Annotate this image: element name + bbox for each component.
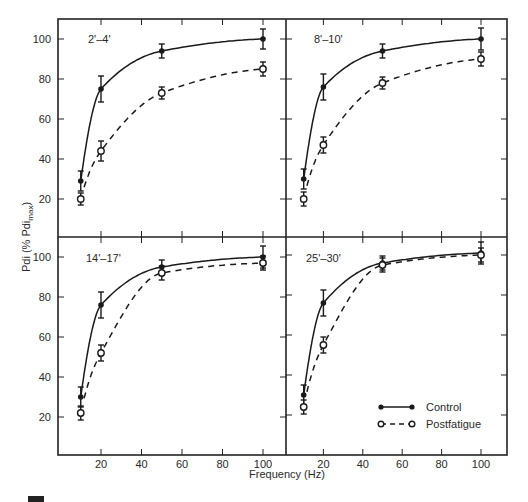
panel-label-2-4: 2'–4'	[88, 33, 111, 45]
x-tick-label: 60	[396, 458, 408, 470]
postfatigue-point	[478, 252, 484, 258]
legend-post-label: Postfatigue	[426, 418, 481, 430]
fitted-curves	[81, 39, 481, 398]
x-tick-label: 40	[357, 458, 369, 470]
postfatigue-point	[78, 196, 84, 202]
legend-post-marker-right	[409, 421, 415, 427]
control-point	[98, 86, 104, 92]
y-tick-label: 20	[39, 411, 51, 423]
postfatigue-point	[159, 90, 165, 96]
control-point	[380, 48, 386, 54]
postfatigue-point	[260, 66, 266, 72]
control-curve	[304, 253, 481, 395]
x-axis-title: Frequency (Hz)	[249, 468, 325, 480]
corner-registration-mark	[28, 496, 44, 502]
control-curve	[81, 39, 263, 181]
x-tick-label: 80	[216, 458, 228, 470]
legend-control-marker-right	[409, 404, 414, 409]
postfatigue-point	[159, 270, 165, 276]
panel-label-8-10: 8'–10'	[314, 33, 343, 45]
x-tick-label: 20	[95, 458, 107, 470]
control-point	[159, 48, 165, 54]
x-tick-label: 60	[176, 458, 188, 470]
y-tick-label: 20	[39, 193, 51, 205]
postfatigue-point	[98, 350, 104, 356]
control-point	[301, 176, 307, 182]
postfatigue-point	[78, 410, 84, 416]
postfatigue-point	[301, 196, 307, 202]
control-curve	[304, 39, 481, 179]
postfatigue-point	[98, 148, 104, 154]
postfatigue-point	[301, 404, 307, 410]
control-curve	[81, 257, 263, 397]
legend-control-label: Control	[426, 401, 461, 413]
control-point	[98, 302, 104, 308]
control-point	[321, 300, 327, 306]
control-point	[78, 394, 84, 400]
panel-label-25-30: 25'–30'	[306, 252, 341, 264]
control-point	[301, 392, 307, 398]
data-points	[78, 28, 485, 420]
postfatigue-point	[260, 260, 266, 266]
x-tick-label: 100	[472, 458, 490, 470]
y-tick-label: 100	[33, 251, 51, 263]
y-axis-title-subscript: max	[26, 206, 35, 221]
x-tick-label: 80	[435, 458, 447, 470]
y-axis-title-close: )	[20, 202, 32, 206]
postfatigue-curve	[84, 69, 263, 187]
y-tick-label: 40	[39, 371, 51, 383]
postfatigue-point	[320, 142, 326, 148]
y-axis-title-main: Pdi (% Pdi	[20, 221, 32, 272]
postfatigue-curve	[307, 255, 481, 392]
y-tick-label: 80	[39, 291, 51, 303]
postfatigue-point	[379, 80, 385, 86]
legend-post-marker-left	[378, 421, 384, 427]
y-tick-label: 60	[39, 113, 51, 125]
postfatigue-point	[320, 342, 326, 348]
x-tick-label: 40	[135, 458, 147, 470]
control-point	[78, 178, 84, 184]
y-tick-label: 100	[33, 33, 51, 45]
panel-label-14-17: 14'–17'	[86, 252, 121, 264]
legend-control-marker-left	[378, 404, 383, 409]
legend: Control Postfatigue	[378, 401, 481, 430]
postfatigue-curve	[84, 263, 263, 398]
control-point	[260, 36, 266, 42]
control-point	[478, 36, 484, 42]
y-tick-label: 80	[39, 73, 51, 85]
postfatigue-point	[379, 262, 385, 268]
control-point	[321, 84, 327, 90]
y-tick-label: 60	[39, 331, 51, 343]
plot-frames	[58, 19, 507, 455]
y-tick-label: 40	[39, 153, 51, 165]
postfatigue-point	[478, 56, 484, 62]
